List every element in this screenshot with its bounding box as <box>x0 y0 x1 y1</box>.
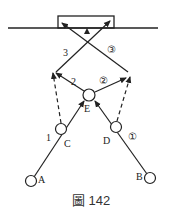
node-b <box>145 173 156 184</box>
label-circled-3: ③ <box>107 44 116 55</box>
label-3: 3 <box>63 47 68 58</box>
label-d: D <box>103 135 110 146</box>
path-2-line <box>56 73 84 91</box>
label-a: A <box>38 174 46 185</box>
label-e: E <box>84 103 90 114</box>
label-c: C <box>64 138 71 149</box>
figure-caption: 圖 142 <box>72 193 110 208</box>
triangle-icon <box>84 28 90 34</box>
dashed-right <box>117 77 130 121</box>
path-circled-3-line <box>62 23 128 72</box>
node-c <box>56 124 67 135</box>
node-a <box>26 176 37 187</box>
node-d <box>111 122 122 133</box>
label-b: B <box>136 171 143 182</box>
node-e <box>83 89 95 101</box>
label-circled-2: ② <box>99 75 108 86</box>
label-circled-1: ① <box>128 131 137 142</box>
diagram: 3 ③ 2 ② E 1 C D ① A B 圖 142 <box>0 0 170 217</box>
dashed-left <box>53 73 61 123</box>
label-2: 2 <box>71 76 76 87</box>
label-1: 1 <box>46 132 51 143</box>
